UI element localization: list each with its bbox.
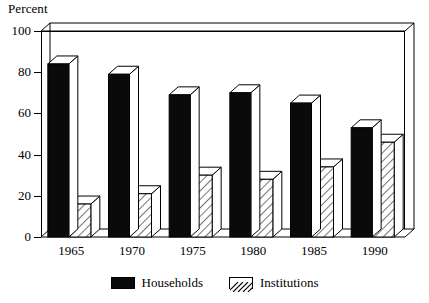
y-tick-label: 40 <box>18 147 31 163</box>
legend-label: Institutions <box>260 275 319 291</box>
y-tick-mark <box>34 237 41 238</box>
y-tick-label: 80 <box>18 64 31 80</box>
legend-entry: Households <box>111 275 203 291</box>
x-tick-label: 1990 <box>362 243 388 259</box>
y-tick-mark <box>34 113 41 114</box>
legend-label: Households <box>142 275 203 291</box>
legend-swatch-institutions-icon <box>229 277 253 289</box>
y-tick-mark <box>34 196 41 197</box>
bar-chart: Percent 020406080100 1965197019751980198… <box>0 0 429 303</box>
y-tick-mark <box>34 155 41 156</box>
x-tick-label: 1980 <box>240 243 266 259</box>
x-tick-label: 1965 <box>58 243 84 259</box>
x-tick-label: 1975 <box>180 243 206 259</box>
y-tick-label: 20 <box>18 188 31 204</box>
x-tick-label: 1985 <box>301 243 327 259</box>
y-tick-label: 100 <box>12 23 32 39</box>
legend-swatch-households-icon <box>111 277 135 289</box>
y-tick-label: 60 <box>18 105 31 121</box>
x-tick-label: 1970 <box>119 243 145 259</box>
legend-entry: Institutions <box>229 275 319 291</box>
legend: HouseholdsInstitutions <box>0 272 429 294</box>
y-tick-mark <box>34 31 41 32</box>
plot-area <box>41 31 405 237</box>
x-axis: 196519701975198019851990 <box>0 243 429 263</box>
y-tick-mark <box>34 72 41 73</box>
